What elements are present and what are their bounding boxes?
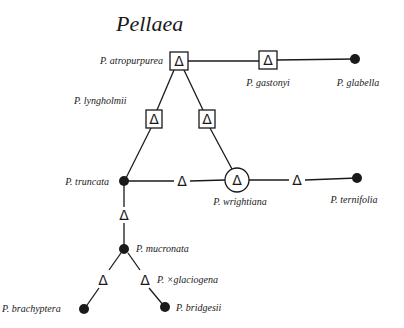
dot-glabella [350, 54, 360, 64]
label-glaciogena: P. ×glaciogena [156, 274, 218, 285]
edge-mucronata-glaciogena [128, 253, 140, 270]
label-bridgesii: P. bridgesii [175, 302, 222, 313]
edge-atropurpurea-right-box [184, 70, 203, 110]
delta-icon: Δ [177, 173, 187, 189]
pellaea-relationship-diagram: Pellaea Δ Δ Δ Δ Δ Δ [0, 0, 404, 328]
node-atropurpurea: Δ [170, 52, 188, 70]
label-brachyptera: P. brachyptera [1, 303, 61, 314]
delta-icon: Δ [292, 172, 302, 188]
edge-atropurpurea-lyngholmii [157, 70, 174, 110]
edge-delta-ternifolia [305, 178, 357, 180]
edge-right-box-wrightiana [210, 128, 232, 169]
label-gastonyi: P. gastonyi [245, 77, 290, 88]
dot-mucronata [119, 244, 129, 254]
edge-gastonyi-glabella [277, 59, 355, 60]
label-lyngholmii: P. lyngholmii [73, 95, 127, 106]
dot-brachyptera [79, 304, 89, 314]
node-wrightiana: Δ [225, 168, 249, 192]
diagram-title: Pellaea [115, 11, 183, 36]
dot-truncata [119, 176, 129, 186]
delta-icon: Δ [202, 111, 212, 127]
edge-delta-wrightiana [190, 180, 225, 181]
delta-icon: Δ [119, 207, 129, 223]
node-right-box: Δ [199, 110, 215, 128]
node-gastonyi: Δ [259, 51, 277, 69]
label-atropurpurea: P. atropurpurea [99, 55, 163, 66]
delta-icon: Δ [174, 53, 184, 69]
node-lyngholmii: Δ [146, 110, 162, 128]
edge-mucronata-left-delta [109, 253, 121, 270]
edge-delta-brachyptera [85, 288, 99, 308]
label-truncata: P. truncata [64, 176, 109, 187]
label-glabella: P. glabella [336, 77, 380, 88]
label-mucronata: P. mucronata [135, 243, 189, 254]
dot-bridgesii [160, 302, 170, 312]
delta-icon: Δ [232, 172, 242, 188]
delta-icon: Δ [149, 111, 159, 127]
dot-ternifolia [352, 173, 362, 183]
label-wrightiana: P. wrightiana [212, 196, 267, 207]
delta-icon: Δ [98, 272, 108, 288]
delta-icon: Δ [140, 272, 150, 288]
edge-lyngholmii-truncata [125, 128, 151, 180]
delta-icon: Δ [263, 52, 273, 68]
label-ternifolia: P. ternifolia [329, 194, 377, 205]
